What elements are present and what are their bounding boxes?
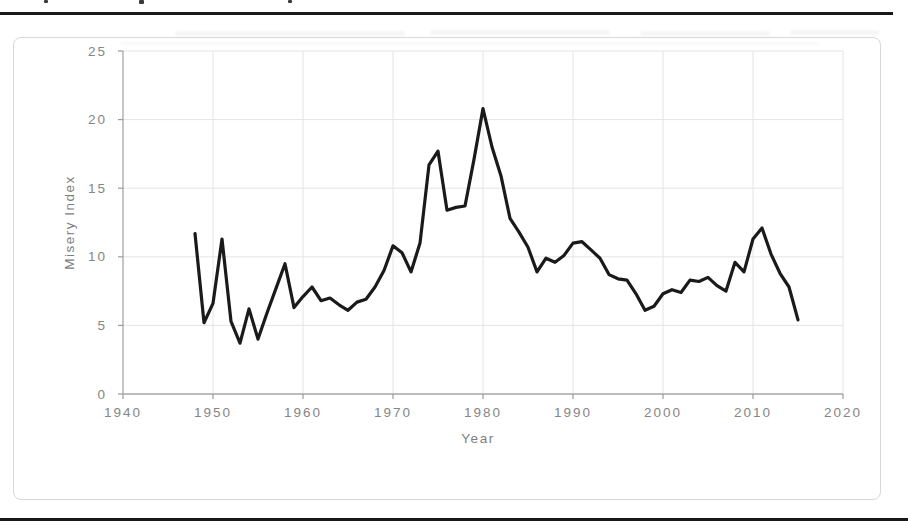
x-tick-label: 1960 — [284, 405, 322, 420]
x-tick-label: 1970 — [374, 405, 412, 420]
y-tick-label: 5 — [97, 318, 107, 333]
x-tick-label: 1990 — [554, 405, 592, 420]
x-axis-title: Year — [438, 431, 518, 447]
misery-index-series-line — [195, 109, 798, 344]
x-tick-label: 1940 — [104, 405, 142, 420]
y-tick-label: 10 — [88, 249, 107, 264]
x-tick-label: 1980 — [464, 405, 502, 420]
y-tick-label: 0 — [97, 387, 107, 402]
x-tick-label: 2020 — [824, 405, 862, 420]
bottom-horizontal-rule — [0, 518, 908, 521]
y-tick-label: 25 — [88, 44, 107, 59]
y-axis-title: Misery Index — [62, 163, 79, 283]
misery-index-line-chart: 0510152025194019501960197019801990200020… — [0, 0, 908, 530]
y-tick-label: 15 — [88, 181, 107, 196]
x-tick-label: 1950 — [194, 405, 232, 420]
y-tick-label: 20 — [88, 112, 107, 127]
x-tick-label: 2000 — [644, 405, 682, 420]
x-tick-label: 2010 — [734, 405, 772, 420]
